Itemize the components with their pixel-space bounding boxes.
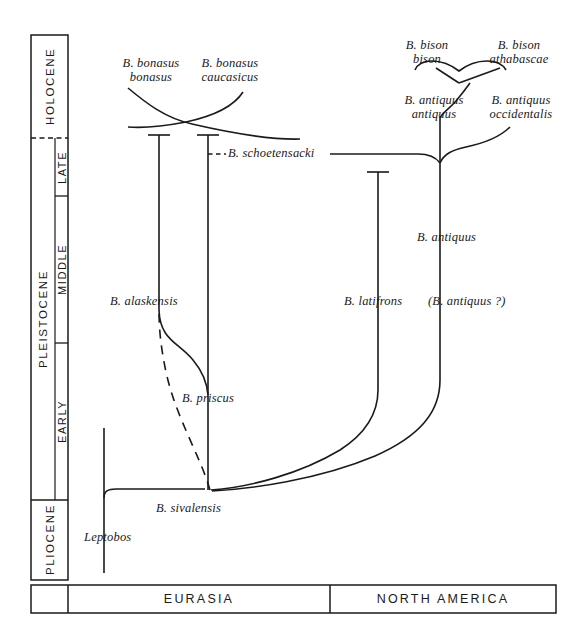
taxon-label-priscus: B. priscus <box>182 391 234 405</box>
region-label-eurasia: EURASIA <box>68 585 330 613</box>
epoch-label-late: LATE <box>55 138 68 196</box>
taxon-label-antiquus-antiquus: B. antiquusantiquus <box>384 93 484 121</box>
taxon-label-antiquus-occidentalis: B. antiquusoccidentalis <box>471 93 571 121</box>
phylogeny-figure: HOLOCENE LATE MIDDLE EARLY PLEISTOCENE P… <box>0 0 585 639</box>
leptobos-to-sivalensis-link <box>104 489 205 498</box>
occidentalis-curve <box>440 127 510 163</box>
taxon-label-bison-bison: B. bisonbison <box>377 38 477 66</box>
epoch-label-early: EARLY <box>55 343 68 500</box>
bonasus-caucasicus-curve <box>128 92 243 127</box>
epoch-label-holocene: HOLOCENE <box>31 35 68 138</box>
taxon-label-schoetensacki: B. schoetensacki <box>228 146 315 160</box>
taxon-label-sivalensis: B. sivalensis <box>156 501 221 515</box>
alaskensis-to-priscus-curve <box>159 310 208 395</box>
bison-athabascae-branch <box>459 68 500 83</box>
schoetensacki-hook-to-antiquus <box>418 154 440 163</box>
region-label-north-america: NORTH AMERICA <box>330 585 556 613</box>
taxon-label-bonasus-caucasicus: B. bonasuscaucasicus <box>180 56 280 84</box>
taxon-label-latifrons: B. latifrons <box>344 294 402 308</box>
bison-bison-branch <box>436 68 459 83</box>
taxon-label-antiquus-query: (B. antiquus ?) <box>428 294 506 308</box>
taxon-label-bison-athabascae: B. bisonathabascae <box>469 38 569 66</box>
taxon-label-antiquus: B. antiquus <box>417 230 476 244</box>
taxon-label-leptobos: Leptobos <box>84 530 131 544</box>
taxon-label-alaskensis: B. alaskensis <box>110 294 178 308</box>
antiquus-to-sivalensis-curve <box>212 380 440 491</box>
epoch-label-pleistocene: PLEISTOCENE <box>31 138 55 500</box>
latifrons-to-sivalensis-curve <box>211 390 378 490</box>
epoch-label-middle: MIDDLE <box>55 196 68 343</box>
epoch-label-pliocene: PLIOCENE <box>31 500 68 580</box>
